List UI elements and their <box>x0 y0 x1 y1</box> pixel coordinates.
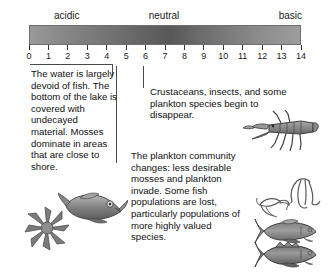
bracket-rule-acidic-top <box>30 64 113 65</box>
scale-label-neutral: neutral <box>149 9 180 22</box>
moss-plant-icon <box>24 205 70 251</box>
ph-number-row: 01234567891011121314 <box>29 50 301 62</box>
scale-label-row: acidic neutral basic <box>28 9 300 22</box>
ph-number-9: 9 <box>201 50 206 62</box>
ph-number-3: 3 <box>85 50 90 62</box>
ph-scale-diagram: acidic neutral basic 0123456789101112131… <box>0 0 328 274</box>
ph-number-0: 0 <box>26 50 31 62</box>
ph-number-8: 8 <box>182 50 187 62</box>
ph-number-6: 6 <box>143 50 148 62</box>
plankton-copepod-large-icon <box>283 177 323 211</box>
ph-number-14: 14 <box>296 50 306 62</box>
ph-number-11: 11 <box>238 50 247 62</box>
ph-number-4: 4 <box>104 50 109 62</box>
annotation-plankton-zone: The plankton community changes: less des… <box>131 150 241 243</box>
annotation-acidic-zone: The water is largely devoid of fish. The… <box>31 68 117 172</box>
ph-number-5: 5 <box>124 50 129 62</box>
ph-number-12: 12 <box>257 50 267 62</box>
scale-label-acidic: acidic <box>54 9 80 22</box>
ph-number-10: 10 <box>218 50 228 62</box>
ph-number-13: 13 <box>277 50 287 62</box>
ph-gradient-bar <box>29 25 301 45</box>
crayfish-icon <box>243 110 319 158</box>
bass-fish-icon <box>254 240 324 270</box>
ph-number-2: 2 <box>65 50 70 62</box>
divider-rule-ph6 <box>143 66 144 88</box>
scale-label-basic: basic <box>279 9 302 22</box>
ph-number-1: 1 <box>46 50 51 62</box>
ph-number-7: 7 <box>162 50 167 62</box>
